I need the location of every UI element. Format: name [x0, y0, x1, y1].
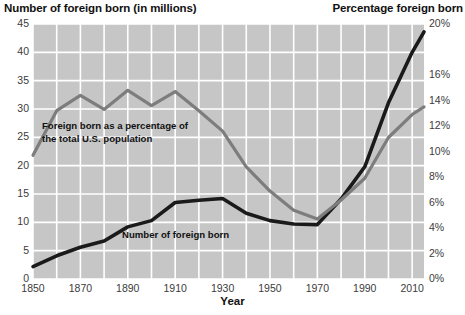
- right-tick-6: 6%: [429, 196, 465, 208]
- percentage-series-annotation-line1: Foreign born as a percentage of: [42, 119, 188, 132]
- right-tick-12: 12%: [429, 119, 465, 131]
- chart-container: Number of foreign born (in millions) Per…: [0, 0, 465, 315]
- left-tick-45: 45: [0, 17, 29, 29]
- x-tick-1910: 1910: [153, 282, 197, 294]
- right-tick-2: 2%: [429, 247, 465, 259]
- right-tick-8: 8%: [429, 170, 465, 182]
- x-tick-1870: 1870: [58, 282, 102, 294]
- left-tick-40: 40: [0, 45, 29, 57]
- x-tick-1930: 1930: [201, 282, 245, 294]
- right-tick-20: 20%: [429, 17, 465, 29]
- x-tick-1970: 1970: [295, 282, 339, 294]
- right-tick-10: 10%: [429, 145, 465, 157]
- right-axis-title: Percentage foreign born: [332, 2, 463, 14]
- left-tick-30: 30: [0, 102, 29, 114]
- percentage-series-annotation-line2: the total U.S. population: [42, 132, 188, 145]
- number-series-annotation: Number of foreign born: [122, 228, 229, 241]
- left-tick-35: 35: [0, 74, 29, 86]
- left-axis-title: Number of foreign born (in millions): [4, 2, 197, 14]
- right-tick-16: 16%: [429, 68, 465, 80]
- left-tick-20: 20: [0, 159, 29, 171]
- x-tick-2010: 2010: [390, 282, 434, 294]
- right-tick-0: 0%: [429, 272, 465, 284]
- left-tick-15: 15: [0, 187, 29, 199]
- x-tick-1950: 1950: [248, 282, 292, 294]
- right-tick-14: 14%: [429, 94, 465, 106]
- x-axis-title: Year: [0, 295, 465, 307]
- left-tick-5: 5: [0, 244, 29, 256]
- x-tick-1990: 1990: [343, 282, 387, 294]
- x-tick-1850: 1850: [11, 282, 55, 294]
- left-tick-10: 10: [0, 215, 29, 227]
- plot-area: [0, 0, 465, 315]
- percentage-series-annotation: Foreign born as a percentage of the tota…: [42, 119, 188, 145]
- x-tick-1890: 1890: [106, 282, 150, 294]
- left-tick-25: 25: [0, 130, 29, 142]
- right-tick-4: 4%: [429, 221, 465, 233]
